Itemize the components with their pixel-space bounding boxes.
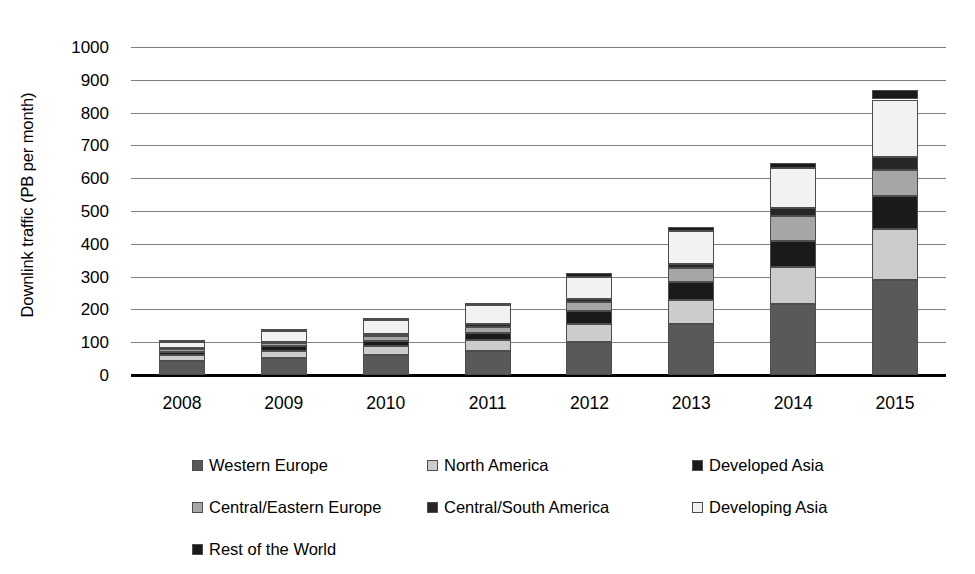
bar-group-2014 [770,47,816,375]
bar-group-2012 [566,47,612,375]
bar-segment [566,342,612,375]
bar-segment [261,346,307,350]
legend-label: Central/South America [444,498,609,516]
bar-segment [770,163,816,168]
bar-segment [261,351,307,358]
bar-segment [261,358,307,375]
bar-segment [872,90,918,99]
bar-segment [770,267,816,305]
bar-group-2011 [465,47,511,375]
legend-item[interactable]: Central/Eastern Europe [192,497,381,517]
bar-segment [872,157,918,170]
legend-item[interactable]: Rest of the World [192,539,336,559]
bar-segment [566,299,612,302]
bar-segment [668,300,714,324]
bar-segment [363,318,409,320]
bar-segment [465,303,511,306]
bar-segment [159,352,205,355]
x-axis-tick-labels: 20082009201020112012201320142015 [131,392,946,418]
gridline-700 [131,145,946,146]
gridline-100 [131,342,946,343]
x-tick-label-2009: 2009 [244,392,324,414]
x-tick-label-2013: 2013 [651,392,731,414]
bar-segment [872,170,918,196]
legend-swatch-icon [692,460,703,471]
y-tick-label-0: 0 [47,367,109,384]
gridline-900 [131,80,946,81]
bar-segment [363,341,409,347]
y-tick-label-1000: 1000 [47,39,109,56]
bar-segment [261,329,307,331]
bar-segment [363,346,409,355]
gridline-500 [131,211,946,212]
bar-segment [566,311,612,324]
gridline-600 [131,178,946,179]
legend-item[interactable]: Developed Asia [692,455,824,475]
bar-segment [872,100,918,157]
legend-swatch-icon [192,460,203,471]
y-axis-title: Downlink traffic (PB per month) [14,35,40,375]
bar-segment [465,340,511,351]
bar-segment [465,351,511,375]
gridline-800 [131,113,946,114]
y-tick-label-700: 700 [47,137,109,154]
bar-segment [770,216,816,241]
legend-item[interactable]: North America [427,455,549,475]
chart-legend: Western EuropeNorth AmericaDeveloped Asi… [192,455,892,565]
y-tick-label-100: 100 [47,334,109,351]
bar-group-2013 [668,47,714,375]
y-tick-label-500: 500 [47,203,109,220]
stacked-bar [261,330,307,375]
x-tick-label-2012: 2012 [549,392,629,414]
legend-label: Central/Eastern Europe [209,498,381,516]
bar-segment [668,324,714,375]
bar-segment [668,282,714,300]
bar-segment [872,196,918,229]
x-tick-label-2011: 2011 [448,392,528,414]
bar-segment [261,331,307,341]
stacked-bar [668,227,714,375]
bar-segment [566,277,612,299]
legend-item[interactable]: Western Europe [192,455,328,475]
y-tick-label-200: 200 [47,301,109,318]
stacked-bar [159,341,205,375]
x-tick-label-2015: 2015 [855,392,935,414]
bar-segment [261,343,307,346]
bar-group-2010 [363,47,409,375]
legend-label: Rest of the World [209,540,336,558]
x-tick-label-2010: 2010 [346,392,426,414]
bar-segment [566,324,612,342]
bar-segment [566,302,612,311]
stacked-bar [363,319,409,375]
y-tick-label-900: 900 [47,72,109,89]
legend-swatch-icon [427,460,438,471]
bar-segment [465,305,511,324]
legend-item[interactable]: Developing Asia [692,497,827,517]
legend-label: Developed Asia [709,456,824,474]
stacked-bar [872,90,918,375]
bar-segment [363,336,409,340]
bar-segment [363,355,409,375]
y-axis-tick-labels: 01002003004005006007008009001000 [47,47,109,375]
bar-segment [668,268,714,281]
bar-segment [770,168,816,207]
bar-segment [770,241,816,267]
bar-segment [159,340,205,342]
legend-label: Developing Asia [709,498,827,516]
bar-segment [465,327,511,333]
bar-segment [770,304,816,375]
y-tick-label-800: 800 [47,105,109,122]
y-tick-label-400: 400 [47,236,109,253]
bar-segment [363,320,409,334]
gridline-1000 [131,47,946,48]
bar-segment [872,229,918,280]
x-tick-label-2014: 2014 [753,392,833,414]
bar-segment [668,227,714,230]
y-tick-label-300: 300 [47,269,109,286]
plot-area [131,47,946,375]
bar-segment [159,342,205,349]
legend-label: Western Europe [209,456,328,474]
bar-segment [668,231,714,265]
legend-item[interactable]: Central/South America [427,497,609,517]
x-tick-label-2008: 2008 [142,392,222,414]
